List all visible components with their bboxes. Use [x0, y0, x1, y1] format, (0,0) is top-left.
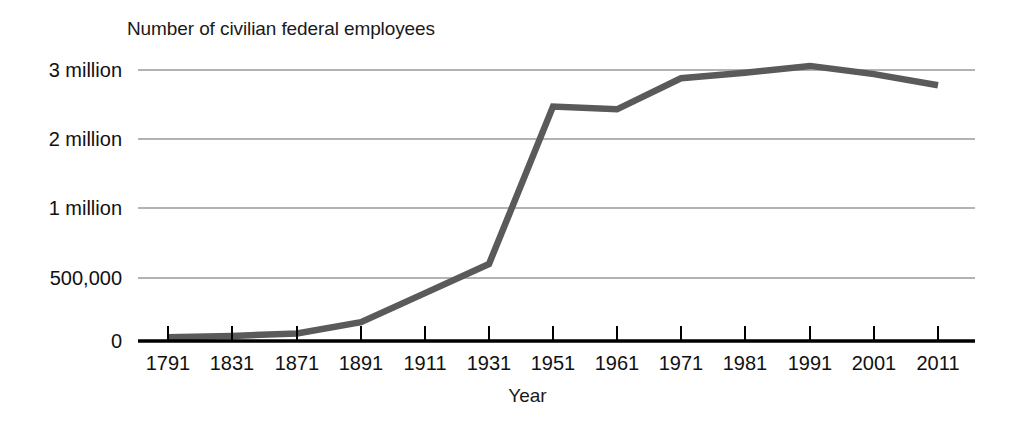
xtick-label-1961: 1961: [595, 352, 640, 374]
xtick-label-1981: 1981: [723, 352, 768, 374]
ytick-label-500000: 500,000: [0, 267, 122, 289]
xtick-label-1911: 1911: [403, 352, 446, 374]
xtick-label-1971: 1971: [659, 352, 704, 374]
ytick-label-3-million: 3 million: [0, 59, 122, 81]
xtick-label-1951: 1951: [531, 352, 576, 374]
x-axis-title-wrapper: Year: [0, 385, 1019, 407]
ytick-label-2-million: 2 million: [0, 128, 122, 150]
chart-figure: Number of civilian federal employees: [0, 0, 1019, 432]
xtick-label-1871: 1871: [275, 352, 320, 374]
xtick-label-2011: 2011: [916, 352, 959, 374]
xtick-label-1931: 1931: [467, 352, 512, 374]
ytick-label-1-million: 1 million: [0, 197, 122, 219]
gridlines: [138, 70, 975, 278]
xtick-label-1991: 1991: [788, 352, 833, 374]
xtick-label-1831: 1831: [210, 352, 255, 374]
data-line-civilian-federal-employees: [168, 66, 938, 337]
ytick-label-0: 0: [0, 330, 122, 352]
xtick-label-1891: 1891: [339, 352, 384, 374]
xtick-label-1791: 1791: [146, 352, 191, 374]
xtick-label-2001: 2001: [852, 352, 897, 374]
x-axis-title: Year: [508, 385, 546, 406]
